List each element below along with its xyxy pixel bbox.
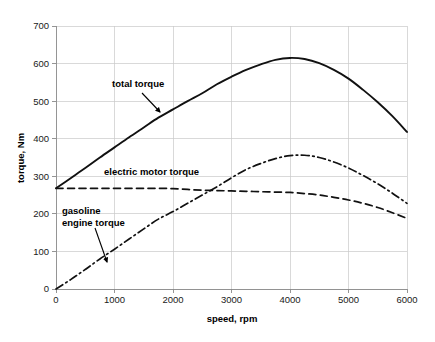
y-tick-label: 300 (33, 171, 49, 182)
x-tick-label: 0 (53, 294, 58, 305)
x-axis-title: speed, rpm (207, 313, 258, 324)
y-axis-title: torque, Nm (15, 133, 26, 183)
x-tick-label: 6000 (396, 294, 417, 305)
y-tick-label: 400 (33, 133, 49, 144)
y-tick-label: 600 (33, 58, 49, 69)
y-tick-label: 200 (33, 208, 49, 219)
chart-canvas: 0100200300400500600700 01000200030004000… (0, 0, 435, 342)
chart-background (0, 0, 435, 342)
y-tick-label: 700 (33, 20, 49, 31)
gasoline-engine-torque-label-line2: engine torque (62, 217, 125, 228)
y-tick-label: 100 (33, 246, 49, 257)
gasoline-engine-torque-label-line1: gasoline (62, 205, 101, 216)
torque-vs-speed-chart: 0100200300400500600700 01000200030004000… (0, 0, 435, 342)
y-tick-label: 0 (44, 283, 49, 294)
x-tick-label: 1000 (104, 294, 125, 305)
x-tick-label: 4000 (279, 294, 300, 305)
x-tick-label: 3000 (221, 294, 242, 305)
electric-motor-torque-label: electric motor torque (104, 166, 199, 177)
total-torque-label: total torque (112, 78, 164, 89)
x-tick-label: 5000 (338, 294, 359, 305)
y-tick-label: 500 (33, 96, 49, 107)
x-tick-label: 2000 (162, 294, 183, 305)
